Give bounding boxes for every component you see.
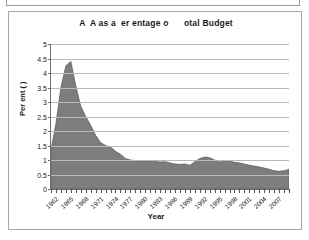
x-axis-tick: [140, 189, 141, 193]
x-axis-tick-label: 1962: [44, 195, 59, 210]
x-axis-tick: [205, 189, 206, 193]
x-axis-tick: [279, 189, 280, 193]
gridline: [51, 175, 289, 176]
y-axis-tick: [48, 59, 51, 60]
gridline: [51, 44, 289, 45]
x-axis-tick: [71, 189, 72, 193]
x-axis-tick: [120, 189, 121, 193]
plot-wrapper: Per ent ( ) 54.543.532.521.510.501962196…: [9, 12, 303, 231]
x-axis-tick-label: 1998: [223, 195, 238, 210]
x-axis-tick-label: 1989: [178, 195, 193, 210]
x-axis-tick: [284, 189, 285, 193]
x-axis-tick: [81, 189, 82, 193]
y-axis-title: Per ent ( ): [18, 81, 27, 116]
x-axis-tick: [244, 189, 245, 193]
y-axis-tick-label: 0: [43, 186, 47, 193]
x-axis-tick: [115, 189, 116, 193]
gridline: [51, 117, 289, 118]
y-axis-tick: [48, 131, 51, 132]
x-axis-tick-label: 2007: [267, 195, 282, 210]
y-axis-tick: [48, 102, 51, 103]
y-axis-tick-label: 2: [43, 128, 47, 135]
x-axis-tick: [155, 189, 156, 193]
x-axis-tick: [239, 189, 240, 193]
x-axis-tick: [254, 189, 255, 193]
x-axis-tick: [145, 189, 146, 193]
gridline: [51, 131, 289, 132]
x-axis-tick-label: 1977: [119, 195, 134, 210]
x-axis-tick: [165, 189, 166, 193]
x-axis-tick: [225, 189, 226, 193]
x-axis-tick: [269, 189, 270, 193]
y-axis-tick-label: 5: [43, 41, 47, 48]
x-axis-tick: [51, 189, 52, 193]
x-axis-tick: [215, 189, 216, 193]
x-axis-tick: [289, 189, 290, 193]
gridline: [51, 73, 289, 74]
y-axis-tick-label: 4.5: [37, 55, 47, 62]
x-axis-tick: [101, 189, 102, 193]
gridline: [51, 160, 289, 161]
x-axis-tick: [249, 189, 250, 193]
y-axis-tick: [48, 117, 51, 118]
y-axis-tick: [48, 88, 51, 89]
x-axis-tick: [125, 189, 126, 193]
x-axis-tick: [130, 189, 131, 193]
x-axis-tick: [76, 189, 77, 193]
y-axis-tick-label: 4: [43, 70, 47, 77]
plot-area: 54.543.532.521.510.501962196519681971197…: [50, 44, 289, 190]
gridline: [51, 59, 289, 60]
y-axis-tick: [48, 146, 51, 147]
y-axis-tick-label: 3.5: [37, 84, 47, 91]
x-axis-tick: [91, 189, 92, 193]
x-axis-tick: [61, 189, 62, 193]
x-axis-tick: [220, 189, 221, 193]
y-axis-tick-label: 2.5: [37, 113, 47, 120]
y-axis-tick: [48, 73, 51, 74]
x-axis-tick: [230, 189, 231, 193]
x-axis-tick-label: 1974: [104, 195, 119, 210]
y-axis-tick: [48, 160, 51, 161]
x-axis-tick: [200, 189, 201, 193]
x-axis-tick: [66, 189, 67, 193]
x-axis-tick-label: 1980: [133, 195, 148, 210]
chart-frame: A A as a er entage o otal Budget Per ent…: [8, 11, 302, 230]
x-axis-tick: [135, 189, 136, 193]
y-axis-tick-label: 3: [43, 99, 47, 106]
x-axis-tick: [210, 189, 211, 193]
x-axis-title: Year: [9, 212, 303, 221]
y-axis-tick: [48, 175, 51, 176]
x-axis-tick: [106, 189, 107, 193]
x-axis-tick-label: 1971: [89, 195, 104, 210]
x-axis-tick: [170, 189, 171, 193]
x-axis-tick: [274, 189, 275, 193]
y-axis-tick-label: 1.5: [37, 142, 47, 149]
x-axis-tick: [150, 189, 151, 193]
x-axis-tick: [86, 189, 87, 193]
x-axis-tick-label: 1992: [193, 195, 208, 210]
x-axis-tick: [56, 189, 57, 193]
gridline: [51, 88, 289, 89]
x-axis-tick: [185, 189, 186, 193]
x-axis-tick-label: 1995: [208, 195, 223, 210]
x-axis-tick: [96, 189, 97, 193]
x-axis-tick: [190, 189, 191, 193]
x-axis-tick-label: 1965: [59, 195, 74, 210]
y-axis-tick-label: 0.5: [37, 171, 47, 178]
gridline: [51, 102, 289, 103]
clipped-top-box: [6, 0, 300, 6]
x-axis-tick: [234, 189, 235, 193]
x-axis-tick: [111, 189, 112, 193]
x-axis-tick: [180, 189, 181, 193]
x-axis-tick: [175, 189, 176, 193]
x-axis-tick: [259, 189, 260, 193]
x-axis-tick-label: 1986: [163, 195, 178, 210]
x-axis-tick: [264, 189, 265, 193]
x-axis-tick-label: 2001: [238, 195, 253, 210]
gridline: [51, 146, 289, 147]
y-axis-tick: [48, 44, 51, 45]
x-axis-tick-label: 1983: [148, 195, 163, 210]
x-axis-tick-label: 2004: [252, 195, 267, 210]
x-axis-tick: [160, 189, 161, 193]
x-axis-tick-label: 1968: [74, 195, 89, 210]
